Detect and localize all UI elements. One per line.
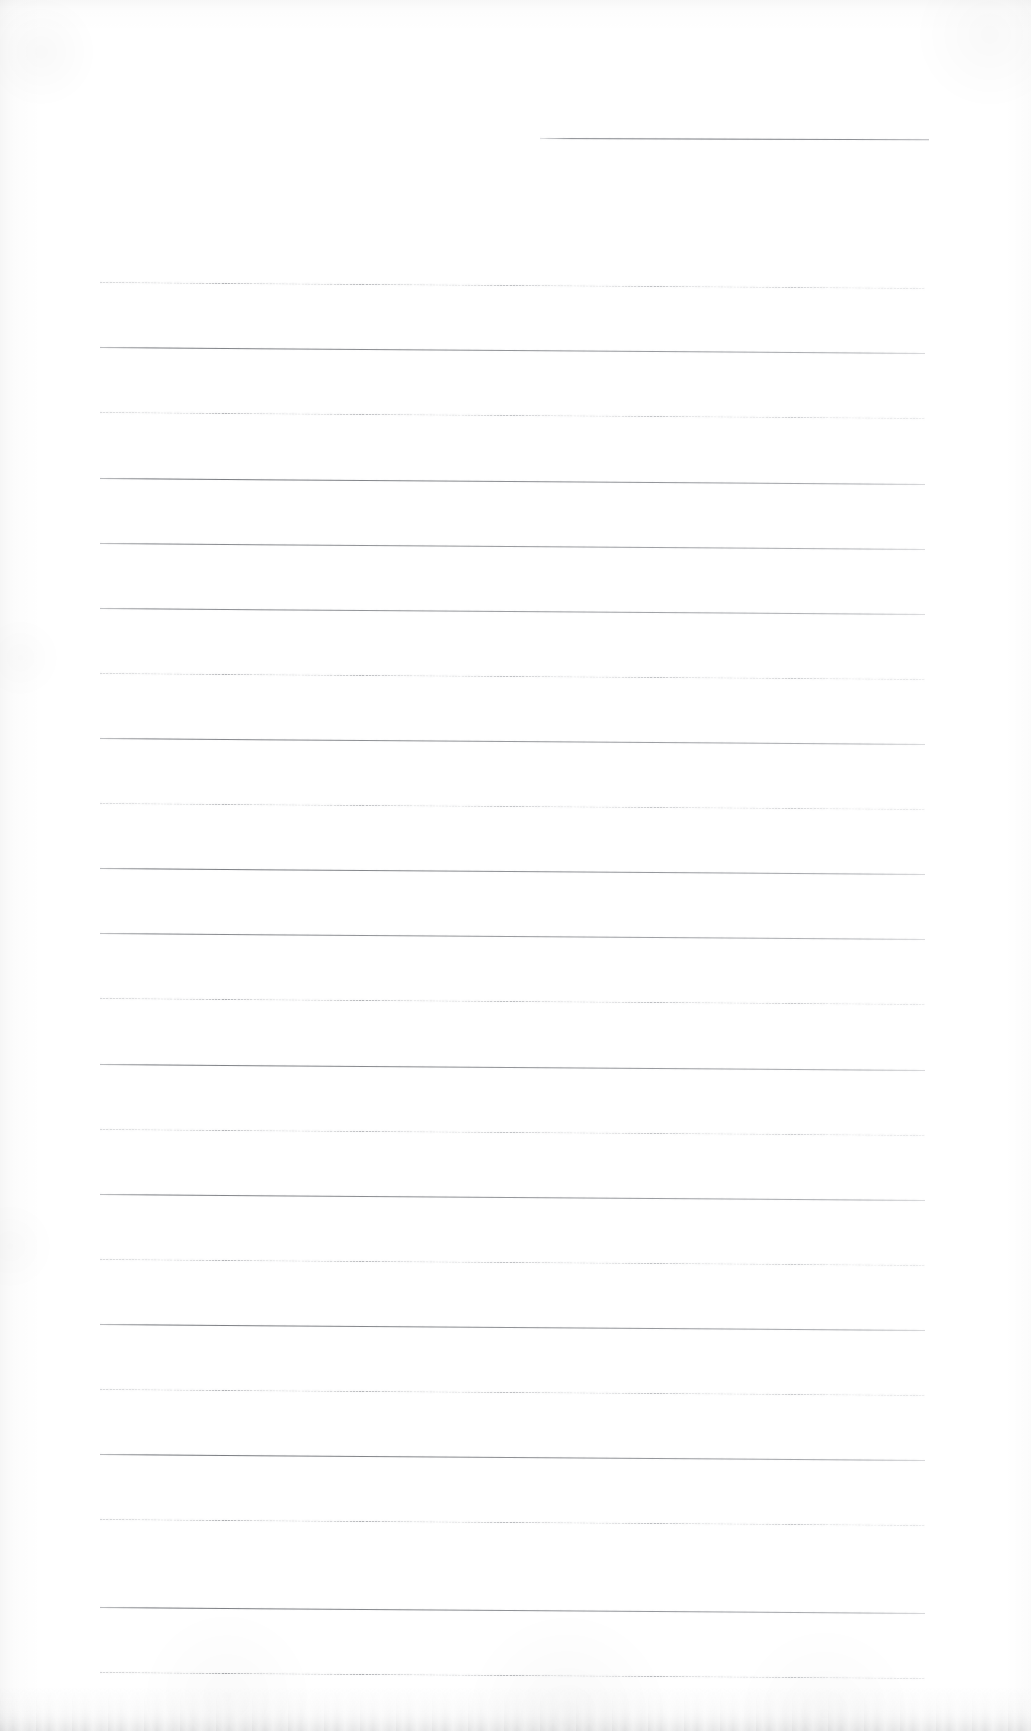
scanned-page — [0, 0, 1031, 1731]
ruled-lines-layer — [0, 0, 1031, 1731]
